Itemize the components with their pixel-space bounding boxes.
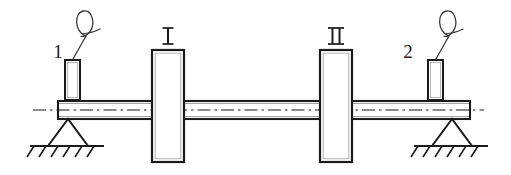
probe-2-leader-line	[436, 36, 449, 59]
disc-1: I	[152, 27, 184, 162]
diagram-canvas: I II 1	[0, 0, 511, 175]
probe-1-label: 1	[53, 41, 63, 62]
support-left-hatching	[27, 146, 94, 157]
support-right	[411, 119, 488, 157]
rotor-shaft	[33, 101, 484, 119]
support-right-hatching	[411, 146, 478, 157]
support-left	[27, 119, 104, 157]
rotor-diagram: I II 1	[0, 0, 511, 175]
disc-1-body	[152, 50, 184, 162]
disc-2-body	[320, 50, 352, 162]
probe-1-leader-line	[73, 36, 86, 59]
probe-1: 1	[53, 11, 100, 100]
support-right-triangle	[432, 119, 472, 146]
probe-2: 2	[403, 11, 463, 100]
support-left-triangle	[48, 119, 88, 146]
probe-2-label: 2	[403, 41, 413, 62]
disc-2: II	[320, 27, 352, 162]
